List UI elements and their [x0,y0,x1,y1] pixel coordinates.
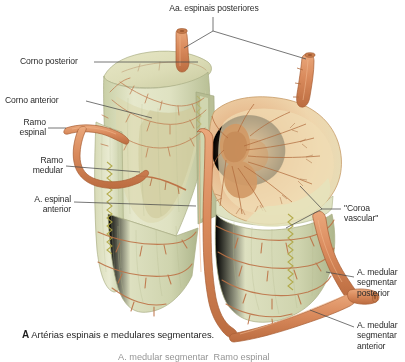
cross-section-face [206,97,341,227]
posterior-spinal-artery-stump-left [176,29,189,72]
label-corno-anterior: Corno anterior [5,95,59,105]
cord-lower-left [108,214,198,312]
label-a-medular-segmentar-anterior: A. medular segmentar anterior [357,320,398,351]
figure-caption: A Artérias espinais e medulares segmenta… [22,329,214,340]
label-ramo-espinal: Ramo espinal [0,117,46,138]
label-corno-posterior: Corno posterior [20,56,78,66]
posterior-spinal-artery-stump-right [297,53,314,107]
label-coroa-vascular: "Coroa vascular" [344,203,378,224]
figure-marker: A [22,329,29,340]
label-ramo-medular: Ramo medular [0,155,63,176]
label-aa-espinais-posteriores: Aa. espinais posteriores [150,3,278,13]
label-a-espinal-anterior: A. espinal anterior [0,194,71,215]
figure-caption-text: Artérias espinais e medulares segmentare… [31,329,214,340]
clipped-next-line: A. medular segmentar Ramo espinal [118,352,270,362]
label-a-medular-segmentar-posterior: A. medular segmentar posterior [357,267,398,298]
